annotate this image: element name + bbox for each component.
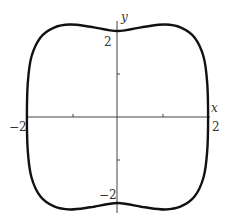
y-axis-label: y [120, 10, 128, 24]
x-axis-label: x [211, 101, 218, 115]
y-tick-label-neg2: −2 [99, 188, 117, 202]
x-tick-label-neg2: −2 [9, 120, 27, 134]
y-tick-label-2: 2 [104, 35, 112, 49]
x-tick-label-2: 2 [212, 120, 220, 134]
plot-canvas: y x −2 2 2 −2 [0, 0, 232, 222]
